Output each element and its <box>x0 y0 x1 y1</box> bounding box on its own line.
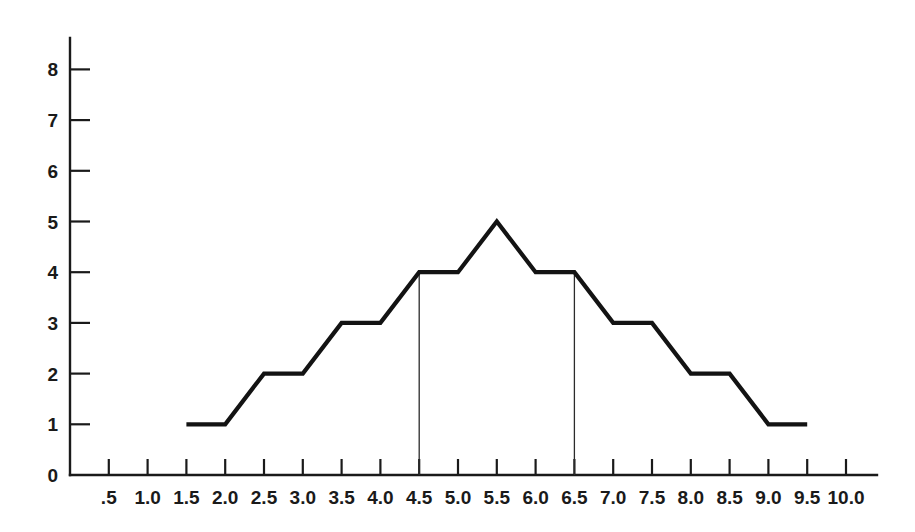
y-tick-label: 0 <box>47 465 58 486</box>
y-axis-tick-labels: 012345678 <box>47 59 58 486</box>
x-tick-label: 6.0 <box>522 487 548 508</box>
x-tick-label: 1.0 <box>134 487 160 508</box>
x-tick-label: 1.5 <box>173 487 200 508</box>
x-tick-label: 5.0 <box>445 487 471 508</box>
x-tick-label: 2.5 <box>251 487 278 508</box>
x-tick-label: 4.5 <box>406 487 433 508</box>
x-tick-label: 9.0 <box>755 487 781 508</box>
y-tick-label: 6 <box>47 161 58 182</box>
x-tick-label: 5.5 <box>484 487 511 508</box>
x-tick-label: 9.5 <box>794 487 821 508</box>
y-tick-label: 5 <box>47 212 58 233</box>
x-tick-label: 4.0 <box>367 487 393 508</box>
y-tick-label: 1 <box>47 414 58 435</box>
x-tick-label: 8.0 <box>678 487 704 508</box>
x-tick-label: 3.5 <box>328 487 355 508</box>
y-tick-label: 2 <box>47 364 58 385</box>
x-tick-label: .5 <box>101 487 117 508</box>
y-tick-label: 7 <box>47 110 58 131</box>
x-tick-label: 6.5 <box>561 487 588 508</box>
x-axis-tick-labels: .51.01.52.02.53.03.54.04.55.05.56.06.57.… <box>101 487 865 508</box>
y-tick-label: 4 <box>47 262 58 283</box>
y-tick-label: 8 <box>47 59 58 80</box>
x-tick-label: 2.0 <box>212 487 238 508</box>
data-series <box>186 222 807 425</box>
reference-lines <box>419 272 574 475</box>
x-tick-label: 8.5 <box>716 487 743 508</box>
frequency-polygon-chart: .51.01.52.02.53.03.54.04.55.05.56.06.57.… <box>0 0 915 532</box>
data-line-frequency <box>186 222 807 425</box>
x-tick-label: 10.0 <box>828 487 865 508</box>
x-tick-label: 3.0 <box>290 487 316 508</box>
y-tick-label: 3 <box>47 313 58 334</box>
x-tick-label: 7.5 <box>639 487 666 508</box>
chart-container: .51.01.52.02.53.03.54.04.55.05.56.06.57.… <box>0 0 915 532</box>
x-tick-label: 7.0 <box>600 487 626 508</box>
